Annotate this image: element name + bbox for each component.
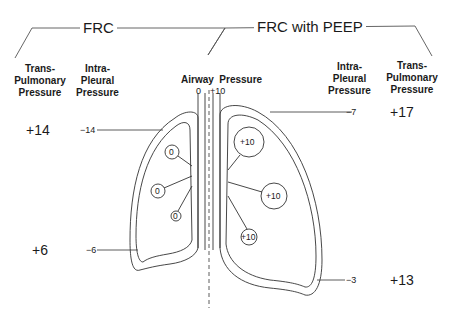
peep-apex-transpulmonary: +17: [390, 104, 414, 120]
left-intrapleural-header: Intra- Pleural Pressure: [75, 63, 120, 99]
frc-alveolus-3-pressure: 0: [173, 211, 178, 221]
frc-alveolus-2-pressure: 0: [155, 186, 160, 196]
peep-alveolus-1-pressure: +10: [240, 137, 254, 147]
peep-base-intrapleural: −3: [346, 275, 356, 285]
right-transpulmonary-header: Trans- Pulmonary Pressure: [382, 60, 442, 96]
left-transpulmonary-header: Trans- Pulmonary Pressure: [10, 63, 70, 99]
frc-peep-title: FRC with PEEP: [254, 19, 366, 35]
peep-base-transpulmonary: +13: [390, 272, 414, 288]
peep-apex-intrapleural: −7: [346, 107, 356, 117]
peep-alveolus-3-pressure: +10: [241, 232, 255, 242]
airway-value-frc: 0: [196, 86, 201, 96]
frc-base-intrapleural: −6: [86, 245, 96, 255]
frc-apex-intrapleural: −14: [80, 125, 95, 135]
frc-alveolus-1-pressure: 0: [169, 147, 174, 157]
airway-pressure-header: Airway Pressure: [181, 74, 262, 86]
frc-base-transpulmonary: +6: [32, 242, 48, 258]
peep-alveolus-2-pressure: +10: [266, 191, 280, 201]
airway-value-peep: +10: [210, 86, 225, 96]
lung-diagram: [0, 0, 449, 313]
frc-bracket: [15, 28, 225, 58]
frc-title: FRC: [80, 20, 117, 36]
right-intrapleural-header: Intra- Pleural Pressure: [327, 61, 372, 97]
frc-apex-transpulmonary: +14: [26, 122, 50, 138]
